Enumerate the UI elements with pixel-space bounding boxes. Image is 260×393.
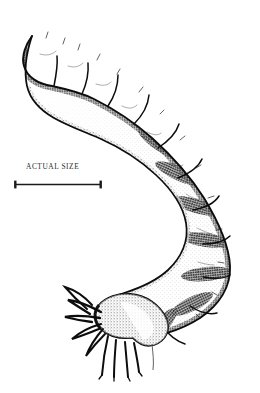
illustration-plate: ACTUAL SIZE [0, 0, 260, 393]
scale-reference: ACTUAL SIZE [14, 163, 102, 189]
scale-caption: ACTUAL SIZE [26, 163, 79, 170]
larva-illustration [0, 0, 260, 393]
larva-head [65, 287, 168, 381]
scale-bar [14, 180, 102, 189]
